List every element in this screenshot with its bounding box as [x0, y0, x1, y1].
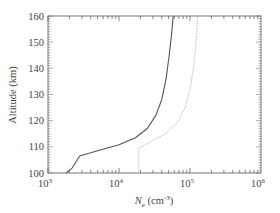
x-axis-title: Ne (cm-3) [134, 194, 174, 209]
x-tick-label: 103 [38, 177, 53, 189]
y-tick-label: 150 [28, 37, 44, 48]
y-tick-label: 140 [28, 63, 44, 74]
series-layer [66, 16, 198, 173]
y-tick-label: 110 [29, 141, 44, 152]
x-tick-labels: 103104105106 [38, 177, 266, 189]
x-tick-label: 105 [180, 177, 195, 189]
y-axis-title: Altitude (km) [7, 66, 19, 124]
series-line-profile-1 [66, 16, 173, 173]
y-tick-label: 100 [28, 168, 44, 179]
y-tick-label: 120 [28, 115, 44, 126]
y-tick-label: 160 [28, 11, 44, 22]
plot-border [48, 16, 261, 173]
series-line-profile-2 [139, 16, 198, 173]
x-tick-label: 104 [109, 177, 124, 189]
y-tick-label: 130 [28, 89, 44, 100]
chart: 100110120130140150160 103104105106 Altit… [0, 0, 280, 213]
y-tick-labels: 100110120130140150160 [28, 11, 44, 179]
plot-frame [48, 16, 261, 173]
x-tick-label: 106 [251, 177, 266, 189]
minor-ticks [48, 16, 261, 173]
